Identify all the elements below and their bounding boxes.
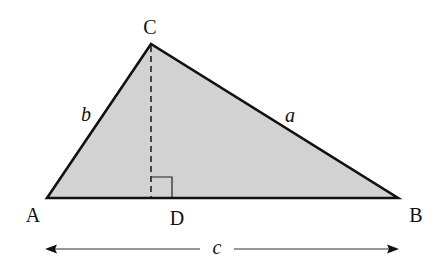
vertex-label-a: A	[26, 204, 41, 226]
triangle-abc	[47, 44, 398, 198]
vertex-label-b: B	[409, 204, 422, 226]
base-dimension-arrow	[45, 245, 399, 254]
side-label-a: a	[285, 104, 295, 126]
vertex-label-c: C	[143, 16, 156, 38]
triangle-diagram: C A B D b a c	[0, 0, 439, 272]
side-label-c: c	[213, 236, 222, 258]
vertex-label-d: D	[170, 207, 184, 229]
side-label-b: b	[81, 103, 91, 125]
